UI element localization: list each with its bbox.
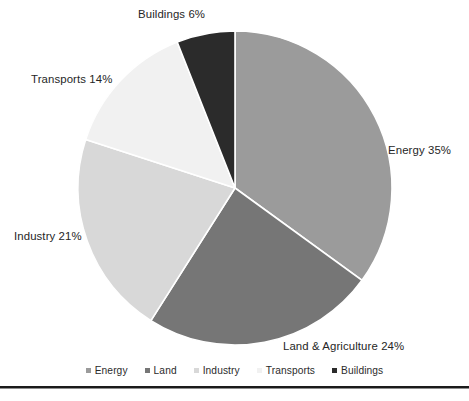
legend-swatch-energy-icon (86, 368, 91, 373)
legend-swatch-transports-icon (257, 368, 262, 373)
bottom-divider-shadow (0, 388, 469, 389)
pie-chart-figure: Energy 35% Land & Agriculture 24% Indust… (0, 0, 469, 401)
legend-item-energy[interactable]: Energy (86, 365, 128, 376)
legend-label-land: Land (154, 365, 177, 376)
slice-label-land: Land & Agriculture 24% (283, 340, 404, 353)
pie-slice-group (78, 31, 392, 345)
slice-label-transports: Transports 14% (31, 73, 112, 86)
legend-swatch-industry-icon (194, 368, 199, 373)
legend-label-buildings: Buildings (341, 365, 383, 376)
slice-label-buildings: Buildings 6% (138, 8, 205, 21)
legend-item-buildings[interactable]: Buildings (332, 365, 383, 376)
slice-label-energy: Energy 35% (388, 144, 451, 157)
legend-label-industry: Industry (203, 365, 240, 376)
legend-item-land[interactable]: Land (145, 365, 177, 376)
slice-label-industry: Industry 21% (14, 230, 82, 243)
legend-label-energy: Energy (95, 365, 128, 376)
chart-legend: EnergyLandIndustryTransportsBuildings (0, 365, 469, 376)
legend-swatch-buildings-icon (332, 368, 337, 373)
legend-item-industry[interactable]: Industry (194, 365, 240, 376)
legend-label-transports: Transports (266, 365, 315, 376)
legend-swatch-land-icon (145, 368, 150, 373)
legend-item-transports[interactable]: Transports (257, 365, 315, 376)
